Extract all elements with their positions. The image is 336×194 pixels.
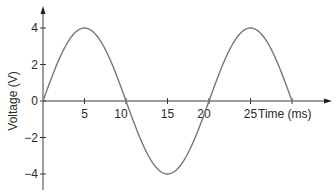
x-axis-label: Time (ms) <box>258 107 312 121</box>
x-tick-label: 25 <box>244 107 258 121</box>
y-tick-label: 2 <box>31 58 38 72</box>
y-axis-arrow <box>41 6 46 14</box>
y-axis-label: Voltage (V) <box>6 71 20 130</box>
y-tick-label: 0 <box>31 94 38 108</box>
y-tick-label: −2 <box>24 131 38 145</box>
x-tick-label: 15 <box>161 107 175 121</box>
x-axis-arrow <box>324 99 332 104</box>
chart: 420−2−4510152025 Voltage (V) Time (ms) <box>0 0 336 194</box>
y-tick-label: 4 <box>31 21 38 35</box>
x-tick-label: 5 <box>81 107 88 121</box>
x-tick-label: 10 <box>114 107 128 121</box>
y-tick-label: −4 <box>24 167 38 181</box>
